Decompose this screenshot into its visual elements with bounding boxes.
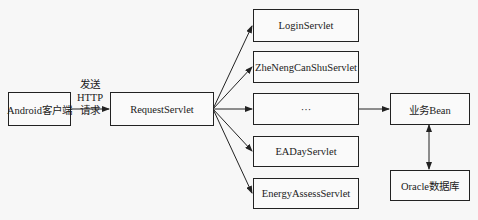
node-android-client: Android客户端 bbox=[8, 92, 71, 126]
edge-label-send-http: 发送HTTP 请求 bbox=[68, 78, 112, 117]
node-oracle-db: Oracle数据库 bbox=[390, 170, 470, 201]
node-login-servlet: LoginServlet bbox=[253, 9, 359, 42]
edge-label-line2: 请求 bbox=[68, 104, 112, 117]
node-zhenengcanshu-servlet: ZheNengCanShuServlet bbox=[253, 51, 359, 83]
node-ellipsis: ··· bbox=[253, 93, 359, 125]
edge-label-line1: 发送HTTP bbox=[68, 78, 112, 104]
node-eaday-servlet: EADayServlet bbox=[253, 136, 359, 167]
node-request-servlet: RequestServlet bbox=[110, 92, 214, 126]
node-business-bean: 业务Bean bbox=[390, 93, 470, 125]
node-energyassess-servlet: EnergyAssessServlet bbox=[253, 178, 359, 209]
